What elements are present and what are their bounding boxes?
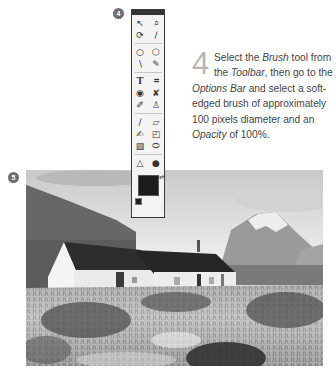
swap-colors-icon[interactable]: ⇄ (159, 173, 164, 180)
zoom-tool-icon[interactable]: ⌕ (149, 17, 164, 29)
clone-stamp-tool-icon[interactable]: ♙ (149, 99, 164, 111)
spot-healing-tool-icon[interactable]: ✘ (149, 87, 164, 99)
tools-panel: ↖ ⌕ ⟳ ∕ ○ ⬡ ∖ ✎ T ⌗ ◉ ✘ ✐ ♙ ∕ ▱ ✍ ◰ ▧ ⬭ … (131, 9, 165, 218)
quick-selection-tool-icon[interactable]: ✎ (149, 58, 164, 70)
options-bar-term: Options Bar (192, 83, 246, 94)
foreground-color-swatch[interactable] (138, 175, 159, 196)
move-tool-icon[interactable]: ↖ (133, 17, 148, 29)
toolbar-term: Toolbar (231, 67, 265, 78)
lasso-tool-icon[interactable]: ⟳ (133, 29, 148, 41)
red-eye-tool-icon[interactable]: ◉ (133, 87, 148, 99)
paint-bucket-tool-icon[interactable]: ◰ (149, 128, 164, 140)
step-line-5: 100 pixels diameter and an (192, 112, 332, 127)
eyedropper-tool-icon[interactable]: ∕ (149, 29, 164, 41)
default-colors-icon[interactable] (135, 198, 142, 205)
text-fragment: of 100%. (227, 129, 270, 140)
step-text: Select the Brush tool from the Toolbar, … (192, 50, 332, 142)
tool-separator (135, 154, 162, 155)
step-line-1: Select the Brush tool from (192, 50, 332, 65)
elliptical-marquee-tool-icon[interactable]: ○ (133, 46, 148, 58)
step-line-6: Opacity of 100%. (192, 127, 332, 142)
tool-separator (135, 72, 162, 73)
tool-separator (135, 43, 162, 44)
text-fragment: Select the (214, 52, 262, 63)
polygonal-lasso-tool-icon[interactable]: ⬡ (149, 46, 164, 58)
tool-grid: ↖ ⌕ ⟳ ∕ ○ ⬡ ∖ ✎ T ⌗ ◉ ✘ ✐ ♙ ∕ ▱ ✍ ◰ ▧ ⬭ … (132, 15, 164, 169)
step-line-4: edged brush of approximately (192, 96, 332, 111)
landscape-photo (26, 170, 323, 366)
gradient-tool-icon[interactable]: ▧ (133, 140, 148, 152)
type-tool-icon[interactable]: T (133, 75, 148, 87)
shape-tool-icon[interactable]: ⬭ (149, 140, 164, 152)
opacity-term: Opacity (192, 129, 227, 140)
crop-tool-icon[interactable]: ⌗ (149, 75, 164, 87)
magic-wand-tool-icon[interactable]: ∖ (133, 58, 148, 70)
step-line-3: Options Bar and select a soft- (192, 81, 332, 96)
step-4-instruction: 4 Select the Brush tool from the Toolbar… (192, 50, 332, 142)
text-fragment: the (214, 67, 231, 78)
text-fragment: edged brush of approximately (192, 98, 326, 109)
brush-tool-icon[interactable]: ✍ (133, 128, 148, 140)
text-fragment: tool from (289, 52, 331, 63)
brush-term: Brush (262, 52, 289, 63)
step-line-2: the Toolbar, then go to the (192, 65, 332, 80)
pencil-tool-icon[interactable]: ∕ (133, 116, 148, 128)
tool-separator (135, 113, 162, 114)
sponge-tool-icon[interactable]: ● (149, 157, 164, 169)
eraser-tool-icon[interactable]: ▱ (149, 116, 164, 128)
text-fragment: and select a soft- (246, 83, 326, 94)
text-fragment: 100 pixels diameter and an (192, 114, 314, 125)
blur-tool-icon[interactable]: △ (133, 157, 148, 169)
step-5-badge: 5 (8, 172, 19, 183)
color-swatches: ⇄ (132, 173, 164, 207)
step-4-badge: 4 (113, 8, 124, 19)
text-fragment: , then go to the (265, 67, 333, 78)
smart-brush-tool-icon[interactable]: ✐ (133, 99, 148, 111)
step-number: 4 (192, 49, 209, 79)
